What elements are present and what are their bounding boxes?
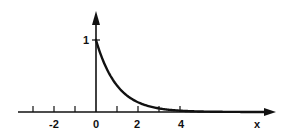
chart: 1 -2 0 2 4 x xyxy=(0,0,286,138)
x-tick-label-m2: -2 xyxy=(49,118,59,130)
x-tick-label-2: 2 xyxy=(134,118,140,130)
x-tick-label-4: 4 xyxy=(178,118,185,130)
y-tick-label-1: 1 xyxy=(83,34,89,46)
y-axis-arrow-icon xyxy=(92,11,100,25)
x-tick-label-0: 0 xyxy=(93,118,99,130)
function-curve xyxy=(96,40,264,112)
x-axis-label: x xyxy=(254,118,261,130)
x-axis-arrow-icon xyxy=(264,108,276,116)
